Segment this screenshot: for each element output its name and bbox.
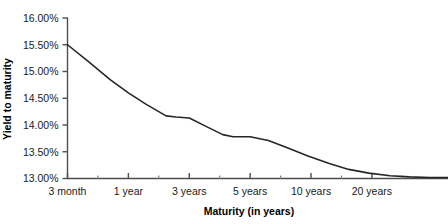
y-axis-tick-label: 14.00% bbox=[23, 119, 59, 131]
y-axis-tick-label: 15.00% bbox=[23, 65, 59, 77]
x-axis-tick-label: 5 years bbox=[233, 185, 267, 197]
y-axis-tick-label: 16.00% bbox=[23, 12, 59, 24]
x-axis-title: Maturity (in years) bbox=[204, 205, 294, 217]
y-axis-tick-label: 15.50% bbox=[23, 39, 59, 51]
x-axis-tick-label: 10 years bbox=[291, 185, 331, 197]
y-axis-title: Yield to maturity bbox=[1, 58, 13, 140]
x-axis-tick-label: 3 years bbox=[172, 185, 206, 197]
y-axis-tick-label: 13.00% bbox=[23, 172, 59, 184]
x-axis-tick-label: 20 years bbox=[352, 185, 392, 197]
x-axis-tick-label: 1 year bbox=[114, 185, 144, 197]
y-axis-tick-label: 13.50% bbox=[23, 146, 59, 158]
chart-canvas: 13.00%13.50%14.00%14.50%15.00%15.50%16.0… bbox=[0, 0, 448, 224]
x-axis-tick-label: 3 month bbox=[49, 185, 87, 197]
yield-curve-chart: 13.00%13.50%14.00%14.50%15.00%15.50%16.0… bbox=[0, 0, 448, 224]
y-axis-tick-label: 14.50% bbox=[23, 92, 59, 104]
